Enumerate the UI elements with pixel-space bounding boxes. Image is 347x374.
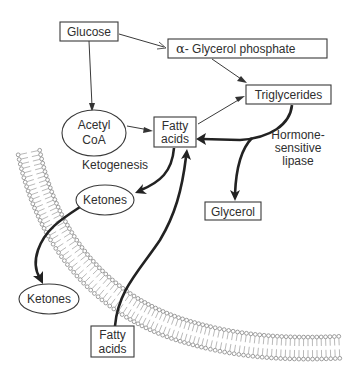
svg-text:Hormone-: Hormone- [271, 128, 324, 142]
lipid-bilayer [16, 148, 341, 361]
ketogenesis-label: Ketogenesis [82, 158, 148, 172]
glycerol-label: Glycerol [211, 205, 255, 219]
svg-text:α- Glycerol phosphate: α- Glycerol phosphate [176, 41, 296, 56]
alpha-symbol: α [176, 41, 185, 56]
acetyl-coa-label-line1: Acetyl [78, 118, 111, 132]
fatty-acids-outer-label-line2: acids [98, 342, 126, 356]
glycerol-phosphate-label: - Glycerol phosphate [185, 42, 296, 56]
node-glycerol: Glycerol [205, 202, 261, 220]
arrow-glycerol-phosphate-to-triglycerides [212, 59, 244, 81]
arrow-fatty-acids-to-triglycerides [198, 99, 240, 124]
node-fatty-acids-extracellular: Fatty acids [91, 326, 134, 357]
node-ketones-extracellular: Ketones [19, 284, 79, 314]
node-acetyl-coa: Acetyl CoA [62, 110, 126, 156]
ketones-label: Ketones [83, 193, 127, 207]
fatty-acids-outer-label-line1: Fatty [99, 328, 126, 342]
node-alpha-glycerol-phosphate: α- Glycerol phosphate [168, 39, 327, 58]
glucose-label: Glucose [67, 25, 111, 39]
node-glucose: Glucose [60, 22, 118, 41]
triglycerides-label: Triglycerides [255, 88, 323, 102]
adipocyte-metabolism-diagram: Glucose α- Glycerol phosphate Triglyceri… [0, 0, 347, 374]
node-triglycerides: Triglycerides [246, 85, 331, 104]
fatty-acids-label-line1: Fatty [162, 119, 189, 133]
arrow-glucose-to-acetyl-coa [89, 41, 92, 106]
svg-text:sensitive: sensitive [275, 141, 322, 155]
node-fatty-acids-intracellular: Fatty acids [154, 117, 196, 147]
acetyl-coa-label-line2: CoA [82, 133, 105, 147]
svg-text:lipase: lipase [282, 154, 314, 168]
ketones-outer-label: Ketones [27, 292, 71, 306]
cell-membrane [16, 148, 341, 361]
arrow-to-glycerol [235, 138, 252, 194]
fatty-acids-label-line2: acids [161, 132, 189, 146]
hormone-sensitive-lipase-label: Hormone- sensitive lipase [271, 128, 324, 168]
arrow-glucose-to-glycerol-phosphate [119, 34, 164, 47]
node-ketones-intracellular: Ketones [76, 185, 134, 215]
